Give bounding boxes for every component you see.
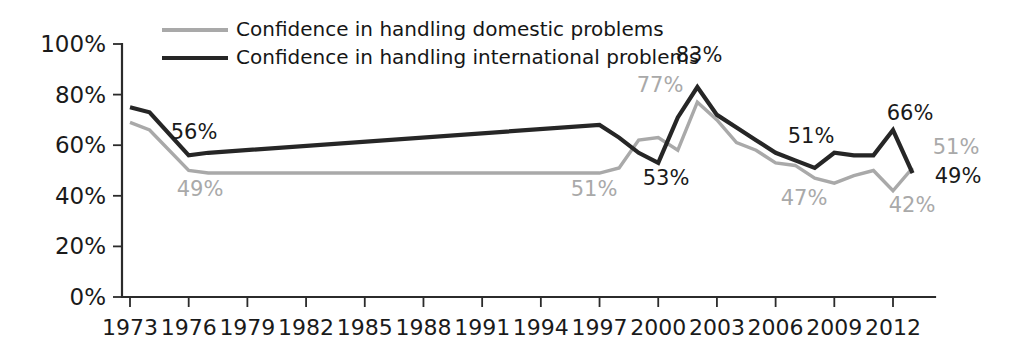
x-axis-tick-label: 1973 <box>102 315 158 340</box>
legend-label-1: Confidence in handling international pro… <box>236 45 699 69</box>
x-axis-tick-label: 2006 <box>748 315 804 340</box>
axis-lines <box>122 44 935 297</box>
data-label: 51% <box>788 124 835 148</box>
data-label: 56% <box>171 120 218 144</box>
x-axis-tick-label: 1982 <box>278 315 334 340</box>
x-axis-tick-label: 2009 <box>806 315 862 340</box>
y-axis-tick-label: 100% <box>40 31 106 57</box>
y-axis-tick-label: 20% <box>55 233 106 259</box>
data-labels: 56%49%51%53%77%83%51%47%66%51%49%42% <box>171 43 982 217</box>
x-axis-tick-label: 2012 <box>865 315 921 340</box>
y-axis-tick-label: 40% <box>55 183 106 209</box>
data-label: 51% <box>571 177 618 201</box>
x-axis-tick-label: 2000 <box>630 315 686 340</box>
legend-label-0: Confidence in handling domestic problems <box>236 17 664 41</box>
chart-legend: Confidence in handling domestic problems… <box>162 17 699 69</box>
chart-canvas: 0%20%40%60%80%100% 197319761979198219851… <box>0 0 1012 350</box>
data-label: 77% <box>637 73 684 97</box>
data-label: 49% <box>935 164 982 188</box>
y-axis-tick-label: 80% <box>55 82 106 108</box>
x-axis-tick-label: 1988 <box>395 315 451 340</box>
line-chart: 0%20%40%60%80%100% 197319761979198219851… <box>0 0 1012 350</box>
x-axis-ticks: 1973197619791982198519881991199419972000… <box>102 297 921 340</box>
x-axis-tick-label: 1997 <box>572 315 628 340</box>
data-label: 51% <box>933 135 980 159</box>
y-axis-tick-label: 0% <box>70 284 107 310</box>
x-axis-tick-label: 1985 <box>337 315 393 340</box>
x-axis-tick-label: 1994 <box>513 315 569 340</box>
x-axis-tick-label: 1976 <box>161 315 217 340</box>
axes <box>122 44 935 297</box>
x-axis-tick-label: 1979 <box>219 315 275 340</box>
y-axis-ticks: 0%20%40%60%80%100% <box>40 31 122 310</box>
x-axis-tick-label: 1991 <box>454 315 510 340</box>
data-label: 47% <box>781 186 828 210</box>
data-label: 49% <box>177 177 224 201</box>
y-axis-tick-label: 60% <box>55 132 106 158</box>
data-label: 66% <box>887 101 934 125</box>
data-label: 53% <box>643 166 690 190</box>
data-label: 42% <box>889 193 936 217</box>
x-axis-tick-label: 2003 <box>689 315 745 340</box>
